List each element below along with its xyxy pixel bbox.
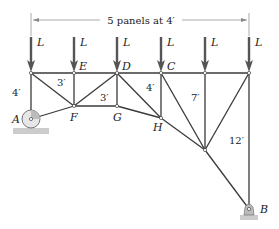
load-arrow-icon [27,37,35,72]
dim-left-height: 4′ [12,87,21,98]
load-label: L [122,36,130,49]
truss-diagram: 5 panels at 4′ [0,0,279,229]
dim-right-height: 12′ [229,135,245,146]
node-label-e: E [78,60,87,73]
dim-dg-height: 3′ [100,92,109,103]
pin-support-icon [240,204,258,220]
load-arrow-icon [113,37,121,72]
load-label: L [254,36,262,49]
load-arrow-icon [201,37,209,72]
node-label-g: G [113,111,122,124]
node-label-a: A [11,113,20,126]
dimension-label: 5 panels at 4′ [107,15,175,26]
node-label-b: B [259,203,268,216]
dim-ch-height: 4′ [146,82,155,93]
loads [27,37,253,72]
joints [29,71,250,210]
load-arrow-icon [157,37,165,72]
load-arrow-icon [70,37,78,72]
dim-ef-height: 3′ [57,77,66,88]
truss-members [31,73,249,209]
load-label: L [210,36,218,49]
load-label: L [79,36,87,49]
load-label: L [36,36,44,49]
load-arrow-icon [245,37,253,72]
dim-panel4-height: 7′ [191,92,200,103]
node-label-f: F [69,111,78,124]
node-label-c: C [167,60,176,73]
load-label: L [166,36,174,49]
node-label-h: H [152,121,163,134]
node-label-d: D [121,60,131,73]
